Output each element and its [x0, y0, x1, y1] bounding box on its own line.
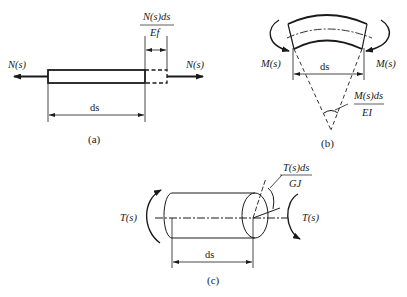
caption-a: (a)	[88, 133, 101, 146]
rotation-angle-arc	[324, 111, 338, 114]
torque-arrow-right	[288, 194, 300, 239]
figure-canvas: N(s) N(s) ds N(s)ds Ef (a) M(s) M(s)	[0, 0, 407, 297]
label-elongation-denominator: Ef	[149, 27, 161, 38]
label-rotation-numerator: M(s)ds	[353, 90, 383, 102]
torque-arrow-left	[147, 190, 161, 243]
moment-arrow-left	[270, 20, 289, 51]
neutral-axis	[287, 29, 372, 38]
label-moment-right: M(s)	[375, 58, 396, 70]
label-force-left: N(s)	[7, 59, 27, 71]
curved-beam-top	[288, 15, 367, 24]
panel-c: T(s) T(s) ds T(s)ds GJ (c)	[120, 162, 319, 287]
panel-b: M(s) M(s) ds M(s)ds EI (b)	[260, 15, 396, 150]
label-twist-numerator: T(s)ds	[283, 162, 309, 174]
label-torque-right: T(s)	[302, 212, 319, 224]
caption-b: (b)	[321, 137, 334, 150]
label-force-right: N(s)	[185, 59, 205, 71]
label-length: ds	[90, 102, 99, 113]
twist-angle-arc	[268, 188, 274, 209]
cylinder-right-end	[242, 193, 268, 238]
label-length: ds	[320, 61, 329, 72]
label-rotation-denominator: EI	[361, 107, 372, 118]
curved-beam-bottom	[294, 41, 362, 50]
panel-a: N(s) N(s) ds N(s)ds Ef (a)	[7, 11, 205, 146]
label-elongation-numerator: N(s)ds	[142, 11, 170, 23]
label-twist-denominator: GJ	[289, 178, 303, 189]
elongation-dashed	[145, 70, 167, 83]
label-torque-left: T(s)	[120, 212, 137, 224]
moment-arrow-right	[366, 20, 389, 51]
cylinder-left-end	[164, 193, 172, 238]
axial-bar	[48, 70, 145, 83]
caption-c: (c)	[207, 274, 220, 287]
label-length: ds	[205, 249, 214, 260]
label-moment-left: M(s)	[260, 58, 281, 70]
